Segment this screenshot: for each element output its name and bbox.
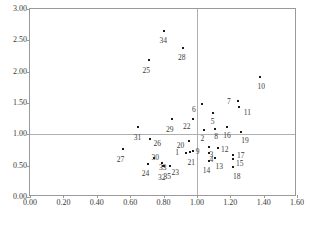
data-point-label: 23	[171, 169, 179, 177]
x-tick-mark	[197, 195, 198, 198]
data-point-label: 13	[215, 163, 223, 171]
y-tick-mark	[27, 9, 30, 10]
data-point	[192, 118, 194, 120]
data-point	[214, 157, 216, 159]
data-point-label: 25	[143, 67, 151, 75]
y-tick-label: 2.50	[13, 36, 27, 44]
x-tick-mark	[130, 195, 131, 198]
data-point	[208, 152, 210, 154]
data-point-label: 14	[203, 167, 211, 175]
y-tick-label: 1.00	[13, 130, 27, 138]
data-point	[185, 152, 187, 154]
y-tick-mark	[27, 134, 30, 135]
y-tick-mark	[27, 72, 30, 73]
data-point	[217, 147, 219, 149]
data-point-label: 34	[160, 37, 168, 45]
x-tick-label: 0.00	[23, 199, 37, 207]
data-point-label: 4	[210, 156, 214, 164]
x-tick-mark	[164, 195, 165, 198]
data-point	[122, 148, 124, 150]
data-point-label: 19	[241, 137, 249, 145]
reference-line-horizontal	[30, 134, 295, 135]
x-tick-mark	[97, 195, 98, 198]
data-point	[163, 165, 165, 167]
data-point	[237, 100, 239, 102]
data-point-label: 1	[175, 149, 179, 157]
data-point-label: 8	[214, 133, 218, 141]
data-point-label: 2	[201, 135, 205, 143]
data-point-label: 31	[134, 134, 142, 142]
data-point-label: 10	[258, 83, 266, 91]
data-point	[208, 146, 210, 148]
data-point-label: 28	[178, 54, 186, 62]
data-point	[171, 118, 173, 120]
data-point	[226, 126, 228, 128]
data-point	[148, 59, 150, 61]
data-point	[232, 166, 234, 168]
data-point	[214, 128, 216, 130]
data-point	[182, 47, 184, 49]
data-point	[192, 150, 194, 152]
data-point	[212, 112, 214, 114]
data-point-label: 29	[166, 126, 174, 134]
y-tick-label: 3.00	[13, 5, 27, 13]
x-tick-mark	[63, 195, 64, 198]
plot-area: 0.000.501.001.502.002.503.00 0.000.200.4…	[29, 8, 296, 196]
data-point-label: 15	[236, 160, 244, 168]
x-tick-mark	[30, 195, 31, 198]
data-point-label: 35	[164, 173, 172, 181]
data-point-label: 21	[187, 159, 195, 167]
data-point	[259, 76, 261, 78]
y-tick-label: 2.00	[13, 68, 27, 76]
figure-caption	[0, 221, 310, 229]
reference-line-vertical	[197, 9, 198, 195]
x-tick-label: 0.20	[56, 199, 70, 207]
x-tick-label: 1.60	[290, 199, 304, 207]
x-tick-label: 0.80	[157, 199, 171, 207]
data-point-label: 27	[117, 156, 125, 164]
data-point	[163, 30, 165, 32]
data-point-label: 24	[142, 170, 150, 178]
data-point	[189, 151, 191, 153]
x-tick-label: 1.20	[223, 199, 237, 207]
x-tick-label: 1.40	[257, 199, 271, 207]
data-point	[169, 165, 171, 167]
x-tick-mark	[297, 195, 298, 198]
data-point	[208, 160, 210, 162]
data-point-label: 16	[223, 132, 231, 140]
data-point-label: 20	[177, 142, 185, 150]
y-tick-mark	[27, 166, 30, 167]
x-tick-label: 0.40	[90, 199, 104, 207]
x-tick-label: 1.00	[190, 199, 204, 207]
data-point-label: 7	[227, 98, 231, 106]
data-point-label: 6	[192, 106, 196, 114]
data-point-label: 12	[221, 146, 229, 154]
data-point	[232, 158, 234, 160]
data-point	[188, 140, 190, 142]
data-point-label: 22	[183, 123, 191, 131]
scatter-chart: 0.000.501.001.502.002.503.00 0.000.200.4…	[0, 0, 310, 229]
y-tick-mark	[27, 103, 30, 104]
data-point-label: 18	[233, 173, 241, 181]
y-tick-label: 0.50	[13, 162, 27, 170]
data-point	[137, 126, 139, 128]
data-point	[240, 131, 242, 133]
data-point-label: 9	[196, 148, 200, 156]
data-point-label: 5	[211, 118, 215, 126]
data-point-label: 17	[237, 152, 245, 160]
data-point	[238, 106, 240, 108]
data-point-label: 11	[244, 109, 251, 117]
data-point	[232, 154, 234, 156]
data-point	[147, 163, 149, 165]
data-point	[201, 103, 203, 105]
data-point	[203, 129, 205, 131]
x-tick-mark	[264, 195, 265, 198]
data-point	[149, 138, 151, 140]
y-tick-mark	[27, 40, 30, 41]
y-tick-label: 1.50	[13, 99, 27, 107]
data-point-label: 30	[152, 154, 160, 162]
x-tick-mark	[230, 195, 231, 198]
data-point-label: 26	[153, 140, 161, 148]
x-tick-label: 0.60	[123, 199, 137, 207]
